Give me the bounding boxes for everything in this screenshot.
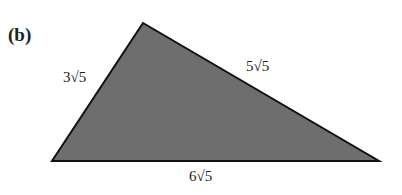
side-label-bottom: 6√5 [189, 168, 212, 185]
triangle [52, 23, 379, 161]
side-label-left: 3√5 [63, 69, 86, 86]
side-label-right: 5√5 [246, 58, 269, 75]
triangle-diagram [0, 0, 402, 195]
